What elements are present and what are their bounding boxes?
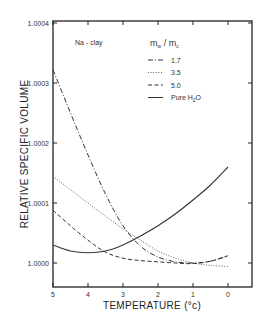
y-tick-label: 1.0000 [28,260,50,267]
x-axis-title: TEMPERATURE (°c) [103,300,201,311]
curve-3-5 [53,176,228,267]
annotation-na-clay: Na - clay [75,39,103,47]
legend-label: 3.5 [171,69,181,76]
legend-label: 5.0 [171,82,181,89]
x-tick-label: 3 [121,291,125,298]
y-axis-ticks: 1.00001.00011.00021.00031.0004 [28,20,252,267]
plot-frame [53,21,252,287]
legend-label: 1.7 [171,57,181,64]
legend-title: mw / mc [150,38,179,49]
curve-pure-h2o [53,167,228,253]
x-tick-label: 1 [191,291,195,298]
x-axis-ticks: 543210 [51,21,230,298]
x-tick-label: 5 [51,291,55,298]
y-tick-label: 1.0002 [28,140,50,147]
y-tick-label: 1.0004 [28,20,50,27]
x-tick-label: 2 [156,291,160,298]
y-tick-label: 1.0001 [28,200,50,207]
legend: mw / mc 1.73.55.0Pure H2O [148,38,202,103]
chart: 1.00001.00011.00021.00031.0004 543210 Na… [0,0,265,328]
x-tick-label: 0 [226,291,230,298]
curve-5-0 [53,210,228,263]
y-axis-title: RELATIVE SPECIFIC VOLUME [19,80,30,229]
legend-entries: 1.73.55.0Pure H2O [148,57,202,104]
plot-curves [53,70,228,267]
y-tick-label: 1.0003 [28,80,50,87]
legend-label: Pure H2O [171,94,202,103]
x-tick-label: 4 [86,291,90,298]
curve-1-7 [53,70,228,263]
